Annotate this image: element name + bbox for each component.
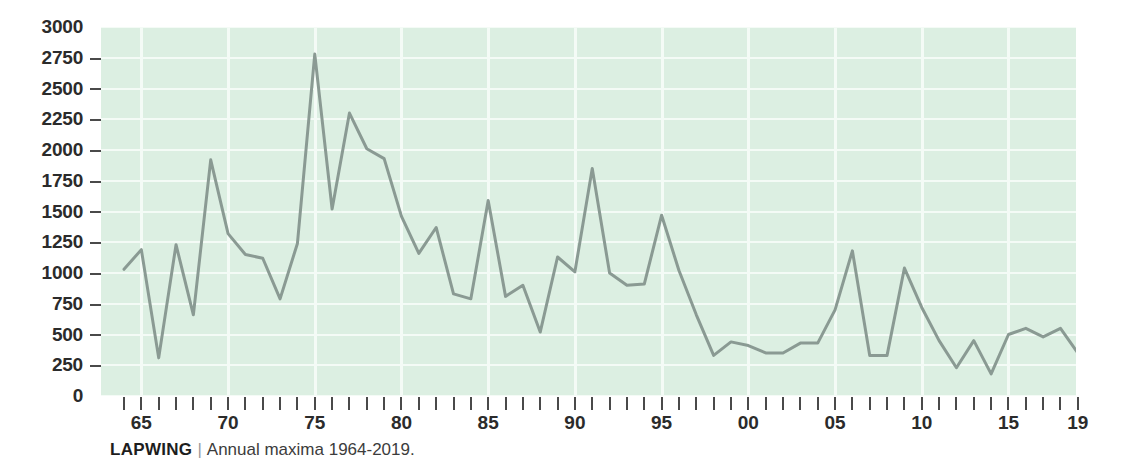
x-axis-tick-label: 05 xyxy=(824,412,845,434)
x-axis-tick-label: 10 xyxy=(911,412,932,434)
y-axis-tick-label: 2250 xyxy=(42,108,83,129)
x-axis-tick-mark xyxy=(557,397,559,410)
y-axis-tick-label: 1250 xyxy=(42,231,83,252)
x-axis-tick-mark xyxy=(782,397,784,410)
x-axis-tick-mark xyxy=(747,397,749,410)
y-axis-tick-mark xyxy=(90,181,101,183)
x-axis-tick-mark xyxy=(678,397,680,410)
y-axis-tick: 2500 xyxy=(42,80,101,98)
y-axis-tick-mark xyxy=(90,304,101,306)
y-axis-tick-label: 2000 xyxy=(42,139,83,160)
y-axis-tick-mark xyxy=(90,150,101,152)
x-axis-tick-mark xyxy=(505,397,507,410)
y-axis-tick: 1500 xyxy=(42,203,101,221)
x-axis-tick-label: 15 xyxy=(998,412,1019,434)
y-axis-tick-label: 500 xyxy=(52,324,83,345)
x-axis-tick-mark xyxy=(713,397,715,410)
x-axis-tick-mark xyxy=(418,397,420,410)
y-axis-tick-mark xyxy=(90,334,101,336)
x-axis-tick-mark xyxy=(1059,397,1061,410)
x-axis-tick-mark xyxy=(869,397,871,410)
y-axis-tick: 2000 xyxy=(42,141,101,159)
y-axis-tick-mark xyxy=(90,273,101,275)
y-axis-tick: 250 xyxy=(52,356,101,374)
x-axis-tick-mark xyxy=(1042,397,1044,410)
x-axis-tick-label: 85 xyxy=(478,412,499,434)
x-axis-tick-mark xyxy=(886,397,888,410)
x-axis-tick-mark xyxy=(400,397,402,410)
x-axis-tick-mark xyxy=(331,397,333,410)
x-axis-tick-label: 75 xyxy=(304,412,325,434)
y-axis-tick: 750 xyxy=(52,295,101,313)
x-axis-tick-mark xyxy=(158,397,160,410)
x-axis-tick-mark xyxy=(817,397,819,410)
y-axis-tick-label: 1750 xyxy=(42,170,83,191)
y-axis-tick-label: 2750 xyxy=(42,47,83,68)
x-axis-tick-mark xyxy=(123,397,125,410)
x-axis-tick-mark xyxy=(903,397,905,410)
x-axis-tick-mark xyxy=(296,397,298,410)
y-axis-tick: 2750 xyxy=(42,49,101,67)
x-axis-tick-mark xyxy=(487,397,489,410)
x-axis-tick-mark xyxy=(314,397,316,410)
x-axis-tick-mark xyxy=(279,397,281,410)
x-axis-tick-mark xyxy=(470,397,472,410)
x-axis-tick-mark xyxy=(522,397,524,410)
x-axis-tick-label: 00 xyxy=(738,412,759,434)
x-axis-tick-mark xyxy=(626,397,628,410)
x-axis-tick-mark xyxy=(730,397,732,410)
x-axis-tick-mark xyxy=(435,397,437,410)
x-axis-tick-mark xyxy=(643,397,645,410)
y-axis-tick-label: 3000 xyxy=(42,16,83,37)
x-axis-tick-mark xyxy=(1077,397,1079,410)
x-axis-tick-mark xyxy=(973,397,975,410)
y-axis-tick-mark xyxy=(90,365,101,367)
chart-caption: LAPWING|Annual maxima 1964-2019. xyxy=(110,440,415,460)
x-axis-tick-mark xyxy=(834,397,836,410)
x-axis-tick-mark xyxy=(1025,397,1027,410)
x-axis-tick-label: 65 xyxy=(131,412,152,434)
y-axis-tick: 2250 xyxy=(42,110,101,128)
y-axis-tick-mark xyxy=(90,58,101,60)
x-axis-tick-mark xyxy=(140,397,142,410)
x-axis-tick-mark xyxy=(609,397,611,410)
plot-area xyxy=(101,27,1076,396)
y-axis-tick-mark xyxy=(90,88,101,90)
x-axis-tick-mark xyxy=(348,397,350,410)
caption-species: LAPWING xyxy=(110,440,192,459)
y-axis-tick: 500 xyxy=(52,326,101,344)
x-axis-tick-mark xyxy=(851,397,853,410)
x-axis-tick-mark xyxy=(695,397,697,410)
y-axis-tick-label: 250 xyxy=(52,354,83,375)
y-axis-tick-label: 1500 xyxy=(42,201,83,222)
x-axis-tick-mark xyxy=(990,397,992,410)
y-axis-tick: 1750 xyxy=(42,172,101,190)
x-axis-tick-mark xyxy=(244,397,246,410)
y-axis-tick: 1000 xyxy=(42,264,101,282)
x-axis-tick-mark xyxy=(383,397,385,410)
x-axis-tick-label: 90 xyxy=(564,412,585,434)
y-axis-tick-mark xyxy=(90,211,101,213)
y-axis-tick-mark xyxy=(90,27,101,29)
x-axis-tick-mark xyxy=(366,397,368,410)
x-axis-tick-mark xyxy=(192,397,194,410)
x-axis-tick-mark xyxy=(574,397,576,410)
x-axis-tick-mark xyxy=(921,397,923,410)
y-axis-tick-mark xyxy=(90,242,101,244)
x-axis-tick-mark xyxy=(591,397,593,410)
x-axis-tick-mark xyxy=(955,397,957,410)
x-axis-tick-mark xyxy=(262,397,264,410)
x-axis-tick-mark xyxy=(539,397,541,410)
x-axis-tick-label: 80 xyxy=(391,412,412,434)
x-axis-tick-mark xyxy=(938,397,940,410)
y-axis-tick-mark xyxy=(90,119,101,121)
x-axis-tick-label: 19 xyxy=(1067,412,1088,434)
x-axis-tick-label: 70 xyxy=(217,412,238,434)
x-axis-tick-mark xyxy=(1007,397,1009,410)
x-axis-tick-mark xyxy=(765,397,767,410)
series-polyline xyxy=(124,54,1076,374)
x-axis-tick-mark xyxy=(227,397,229,410)
x-axis-tick-mark xyxy=(799,397,801,410)
series-line-chart xyxy=(101,27,1076,396)
caption-separator: | xyxy=(197,440,201,459)
